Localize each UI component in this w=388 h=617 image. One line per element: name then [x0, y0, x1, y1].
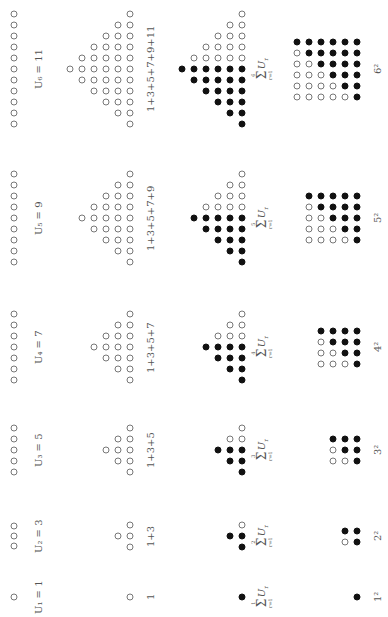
odd-dot	[11, 215, 18, 222]
square-dot	[306, 60, 313, 67]
sum-triangle-dot	[239, 333, 246, 340]
triangle-dot	[67, 66, 74, 73]
square-dot	[294, 49, 301, 56]
sum-triangle-dot	[239, 88, 246, 95]
square-dot	[330, 237, 337, 244]
triangle-sum-label: 1+3+5	[145, 432, 156, 468]
square-dot	[306, 71, 313, 78]
sum-triangle-dot	[239, 110, 246, 117]
sigma-sum-label: 4Σr=1Ur	[251, 336, 273, 358]
odd-dot	[11, 66, 18, 73]
sum-triangle-dot	[227, 436, 234, 443]
triangle-dot	[103, 344, 110, 351]
triangle-dot	[103, 237, 110, 244]
square-dot	[306, 237, 313, 244]
odd-dot	[11, 311, 18, 318]
square-dot	[342, 349, 349, 356]
sum-triangle-dot	[227, 447, 234, 454]
sum-triangle-dot	[215, 77, 222, 84]
square-dot	[354, 327, 361, 334]
sum-triangle-dot	[215, 44, 222, 51]
triangle-dot	[127, 522, 134, 529]
sigma-sum-label: 2Σr=1Ur	[251, 525, 273, 547]
square-dot	[342, 538, 349, 545]
square-dot	[318, 204, 325, 211]
triangle-dot	[91, 66, 98, 73]
triangle-dot	[127, 333, 134, 340]
sum-triangle-dot	[227, 355, 234, 362]
square-dot	[294, 38, 301, 45]
square-dot	[294, 93, 301, 100]
square-dot	[354, 458, 361, 465]
triangle-dot	[91, 226, 98, 233]
square-dot	[330, 360, 337, 367]
sum-triangle-dot	[239, 311, 246, 318]
sum-triangle-dot	[239, 322, 246, 329]
odd-dot	[11, 77, 18, 84]
sum-triangle-dot	[215, 355, 222, 362]
odd-dot	[11, 425, 18, 432]
sum-triangle-dot	[239, 77, 246, 84]
sum-triangle-dot	[239, 204, 246, 211]
triangle-dot	[91, 215, 98, 222]
sum-triangle-dot	[239, 182, 246, 189]
square-dot	[330, 349, 337, 356]
triangle-sum-label: 1+3+5+7+9+11	[145, 26, 156, 112]
sum-triangle-dot	[239, 458, 246, 465]
square-dot	[342, 204, 349, 211]
square-label: 1²	[372, 592, 383, 602]
square-dot	[342, 436, 349, 443]
odd-dot	[11, 344, 18, 351]
odd-dot	[11, 182, 18, 189]
odd-dot	[11, 88, 18, 95]
triangle-dot	[127, 355, 134, 362]
triangle-dot	[115, 436, 122, 443]
triangle-dot	[127, 237, 134, 244]
sigma-sum-label: 5Σr=1Ur	[251, 207, 273, 229]
triangle-dot	[127, 88, 134, 95]
sum-triangle-dot	[203, 66, 210, 73]
square-dot	[354, 38, 361, 45]
sum-triangle-dot	[239, 594, 246, 601]
triangle-dot	[115, 355, 122, 362]
odd-dot	[11, 436, 18, 443]
triangle-dot	[115, 22, 122, 29]
triangle-dot	[127, 248, 134, 255]
triangle-dot	[127, 544, 134, 551]
sum-triangle-dot	[215, 55, 222, 62]
square-dot	[330, 82, 337, 89]
triangle-dot	[127, 469, 134, 476]
square-dot	[354, 338, 361, 345]
sum-triangle-dot	[239, 469, 246, 476]
sum-triangle-dot	[227, 99, 234, 106]
square-dot	[318, 327, 325, 334]
square-dot	[306, 193, 313, 200]
triangle-dot	[115, 33, 122, 40]
odd-dot	[11, 333, 18, 340]
square-dot	[354, 436, 361, 443]
sum-triangle-dot	[227, 22, 234, 29]
triangle-dot	[127, 533, 134, 540]
sum-triangle-dot	[239, 544, 246, 551]
triangle-dot	[115, 55, 122, 62]
odd-dot	[11, 44, 18, 51]
triangle-dot	[115, 44, 122, 51]
sum-triangle-dot	[239, 11, 246, 18]
odd-dot	[11, 204, 18, 211]
sum-triangle-dot	[239, 55, 246, 62]
square-dot	[342, 215, 349, 222]
odd-dot	[11, 543, 18, 550]
square-dot	[318, 226, 325, 233]
odd-dot	[11, 259, 18, 266]
sum-triangle-dot	[227, 366, 234, 373]
triangle-sum-label: 1+3+5+7	[145, 322, 156, 373]
square-dot	[354, 447, 361, 454]
sum-triangle-dot	[227, 226, 234, 233]
square-label: 4²	[372, 342, 383, 352]
sum-triangle-dot	[227, 33, 234, 40]
sum-triangle-dot	[203, 55, 210, 62]
square-dot	[294, 71, 301, 78]
sum-triangle-dot	[227, 110, 234, 117]
triangle-dot	[127, 259, 134, 266]
square-dot	[318, 193, 325, 200]
